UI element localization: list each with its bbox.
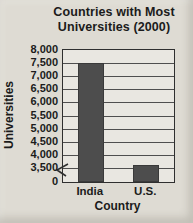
y-tick-label: 4,500	[0, 135, 58, 147]
y-tick-label: 0	[0, 175, 58, 187]
plot-area	[62, 49, 175, 183]
bar-us	[133, 165, 159, 182]
y-tick-label: 6,000	[0, 95, 58, 107]
y-tick-label: 3,500	[0, 161, 58, 173]
y-tick-label: 4,000	[0, 148, 58, 160]
bar-chart-figure: Countries with Most Universities (2000) …	[0, 0, 193, 223]
y-tick-label: 8,000	[0, 43, 58, 55]
y-tick-label: 7,000	[0, 69, 58, 81]
y-tick-label: 5,500	[0, 109, 58, 121]
chart-title: Countries with Most Universities (2000)	[40, 5, 188, 35]
x-tick-label: U.S.	[115, 185, 175, 198]
y-tick-label: 7,500	[0, 56, 58, 68]
x-axis-label: Country	[62, 199, 173, 213]
x-tick-label: India	[60, 185, 120, 198]
y-tick-label: 5,000	[0, 122, 58, 134]
bar-india	[78, 63, 104, 182]
y-tick-label: 6,500	[0, 82, 58, 94]
